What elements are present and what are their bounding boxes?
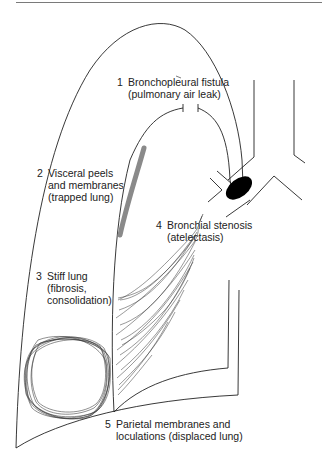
left-bronchus-branch xyxy=(208,178,222,202)
bronchial-stenosis-plug xyxy=(222,172,257,205)
lung-outline xyxy=(112,108,183,412)
label-bronchial-stenosis: 4Bronchial stenosis (atelectasis) xyxy=(156,219,252,243)
carina-right-bronchus xyxy=(247,176,302,205)
loculation-scribble xyxy=(24,336,110,418)
trachea-right-wall xyxy=(294,80,305,163)
left-bronchus-lower xyxy=(226,200,250,217)
label-visceral-peels: 2Visceral peels and membranes (trapped l… xyxy=(37,167,124,203)
label-stiff-lung: 3Stiff lung (fibrosis, consolidation) xyxy=(36,270,112,306)
label-bronchopleural-fistula: 1Bronchopleural fistula (pulmonary air l… xyxy=(117,76,229,100)
diaphragm-inner xyxy=(114,280,229,412)
lung-outline-right xyxy=(198,108,231,185)
trachea-left-wall xyxy=(228,80,254,180)
label-parietal-membranes: 5Parietal membranes and loculations (dis… xyxy=(105,418,243,442)
